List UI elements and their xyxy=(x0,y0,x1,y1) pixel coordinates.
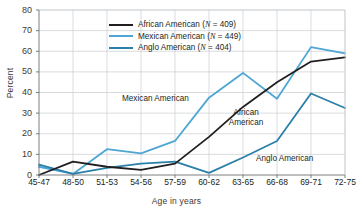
legend-label-african-american: African American (N = 409) xyxy=(138,19,236,31)
y-tick-label: 10 xyxy=(8,150,32,159)
x-tick-label: 72-75 xyxy=(328,178,361,187)
series-annotation: African American xyxy=(219,108,273,128)
x-tick-label: 69-71 xyxy=(294,178,328,187)
x-tick-label: 45-47 xyxy=(22,178,56,187)
chart-legend: African American (N = 409) Mexican Ameri… xyxy=(109,19,241,54)
legend-item-mexican-american: Mexican American (N = 449) xyxy=(109,31,241,43)
legend-swatch-mexican-american xyxy=(109,35,133,37)
y-tick-label: 30 xyxy=(8,109,32,118)
legend-swatch-anglo-american xyxy=(109,47,133,49)
y-tick-label: 50 xyxy=(8,67,32,76)
legend-swatch-african-american xyxy=(109,24,133,26)
y-tick-label: 70 xyxy=(8,26,32,35)
x-tick-label: 51-53 xyxy=(90,178,124,187)
x-tick-label: 57-59 xyxy=(158,178,192,187)
x-tick-label: 66-68 xyxy=(260,178,294,187)
x-tick-label: 60-62 xyxy=(192,178,226,187)
legend-label-anglo-american: Anglo American (N = 404) xyxy=(138,42,232,54)
legend-item-anglo-american: Anglo American (N = 404) xyxy=(109,42,241,54)
legend-item-african-american: African American (N = 409) xyxy=(109,19,241,31)
y-tick-label: 40 xyxy=(8,88,32,97)
y-tick-label: 20 xyxy=(8,129,32,138)
y-tick-label: 80 xyxy=(8,6,32,15)
x-tick-label: 63-65 xyxy=(226,178,260,187)
series-annotation: Anglo American xyxy=(256,154,313,164)
y-tick-label: 60 xyxy=(8,47,32,56)
x-tick-label: 48-50 xyxy=(56,178,90,187)
series-annotation: Mexican American xyxy=(122,94,189,104)
legend-label-mexican-american: Mexican American (N = 449) xyxy=(138,31,241,43)
x-tick-label: 54-56 xyxy=(124,178,158,187)
